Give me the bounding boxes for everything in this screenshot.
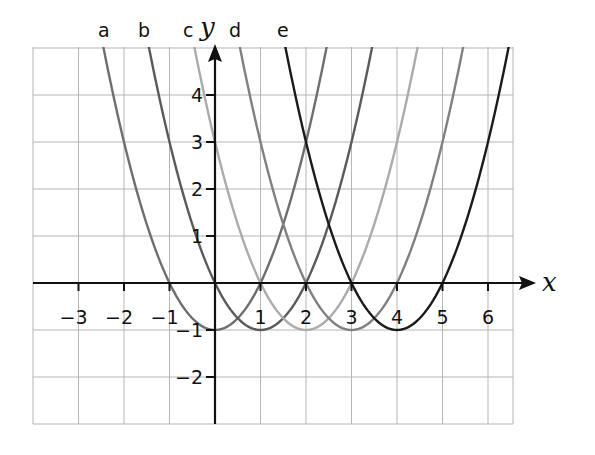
x-tick-label: −3	[59, 306, 87, 328]
axes	[33, 44, 536, 424]
curve-label-a: a	[98, 19, 110, 41]
x-axis-label: x	[542, 267, 557, 297]
y-tick-label: 4	[191, 84, 203, 106]
y-tick-label: 3	[191, 131, 203, 153]
grid	[33, 47, 513, 424]
curve-label-b: b	[138, 19, 150, 41]
x-tick-label: −2	[105, 306, 133, 328]
curve-label-d: d	[229, 19, 241, 41]
curve-label-c: c	[183, 19, 193, 41]
y-tick-label: 1	[191, 225, 203, 247]
curve-label-e: e	[277, 19, 289, 41]
y-tick-label: 2	[191, 178, 203, 200]
y-axis-label: y	[199, 12, 215, 42]
y-tick-label: −2	[175, 366, 203, 388]
y-tick-label: −1	[175, 319, 203, 341]
x-tick-label: 5	[436, 306, 448, 328]
x-tick-label: 4	[391, 306, 403, 328]
x-tick-label: 6	[482, 306, 494, 328]
parabola-chart: −3−2−11234564321−1−2 x y a b c d e	[0, 0, 595, 455]
x-tick-label: 2	[300, 306, 312, 328]
x-tick-label: 1	[254, 306, 266, 328]
x-tick-label: 3	[345, 306, 357, 328]
